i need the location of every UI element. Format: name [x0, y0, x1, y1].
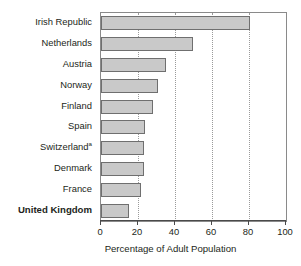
bar: [101, 204, 129, 218]
x-tick-label: 20: [122, 226, 152, 237]
x-tick: [248, 221, 249, 225]
x-tick-label: 100: [270, 226, 300, 237]
x-tick: [285, 221, 286, 225]
bar: [101, 141, 144, 155]
bar: [101, 100, 153, 114]
plot-area: [100, 12, 287, 222]
x-axis-line: [100, 220, 286, 221]
plot-inner: [101, 13, 286, 221]
category-label: Finland: [0, 101, 92, 111]
x-tick: [137, 221, 138, 225]
bar: [101, 37, 193, 51]
category-label: Netherlands: [0, 38, 92, 48]
bar: [101, 16, 250, 30]
bar: [101, 58, 166, 72]
bar: [101, 79, 158, 93]
category-label: Denmark: [0, 163, 92, 173]
category-label: United Kingdom: [0, 205, 92, 215]
x-tick: [174, 221, 175, 225]
category-label: Switzerlanda: [0, 142, 92, 152]
bar: [101, 120, 145, 134]
category-label: Austria: [0, 59, 92, 69]
x-axis-title: Percentage of Adult Population: [0, 243, 301, 254]
category-label: Spain: [0, 121, 92, 131]
bar-chart: Irish RepublicNetherlandsAustriaNorwayFi…: [0, 0, 301, 266]
x-tick-label: 60: [196, 226, 226, 237]
gridline-80: [249, 13, 250, 221]
gridline-60: [212, 13, 213, 221]
bar: [101, 162, 144, 176]
x-tick-label: 80: [233, 226, 263, 237]
category-label: Irish Republic: [0, 17, 92, 27]
category-label: France: [0, 184, 92, 194]
bar: [101, 183, 141, 197]
category-labels: Irish RepublicNetherlandsAustriaNorwayFi…: [0, 12, 96, 220]
x-tick-label: 0: [85, 226, 115, 237]
x-tick: [100, 221, 101, 225]
x-tick-label: 40: [159, 226, 189, 237]
footnote-marker: a: [89, 140, 92, 147]
x-tick: [211, 221, 212, 225]
category-label: Norway: [0, 80, 92, 90]
